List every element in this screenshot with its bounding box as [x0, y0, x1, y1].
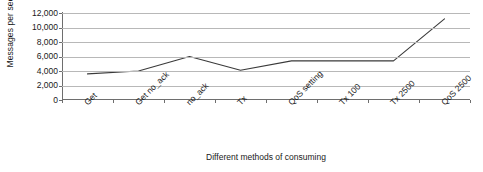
y-axis-tick-label: 2,000 [18, 81, 58, 90]
gridline [62, 13, 470, 14]
gridline [62, 71, 470, 72]
y-axis-tick-label: 6,000 [18, 52, 58, 61]
x-axis-category-labels: GetGet no_ackno_ackTxQoS settingTx 100Tx… [62, 100, 470, 148]
y-axis-tick-label: 0 [18, 96, 58, 105]
x-axis-title: Different methods of consuming [62, 152, 470, 162]
y-axis-tick-label: 10,000 [18, 23, 58, 32]
gridline [62, 28, 470, 29]
y-axis-tick-labels: 12,00010,0008,0006,0004,0002,0000 [18, 8, 58, 102]
y-axis-title: Messages per second [5, 0, 15, 73]
y-axis-tick [59, 28, 62, 29]
y-axis-tick [59, 42, 62, 43]
y-axis-tick-label: 8,000 [18, 38, 58, 47]
y-axis-tick [59, 71, 62, 72]
y-axis-tick [59, 86, 62, 87]
y-axis-tick-label: 4,000 [18, 67, 58, 76]
y-axis-tick-label: 12,000 [18, 9, 58, 18]
y-axis-tick [59, 57, 62, 58]
y-axis-tick [59, 13, 62, 14]
x-axis-tick [470, 100, 471, 103]
chart-container: Messages per second 12,00010,0008,0006,0… [0, 0, 483, 172]
gridline [62, 42, 470, 43]
gridline [62, 57, 470, 58]
